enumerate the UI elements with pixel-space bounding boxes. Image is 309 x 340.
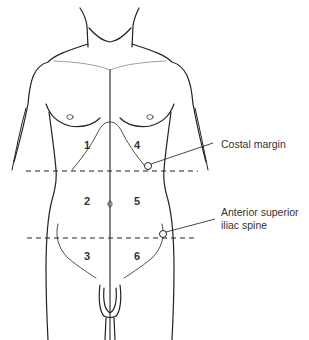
neck-right-outline <box>132 8 139 47</box>
region-number-5: 5 <box>134 195 140 207</box>
costal-margin-marker <box>145 163 152 170</box>
left-torso-outline <box>46 112 56 340</box>
left-arm-inner <box>12 108 26 170</box>
right-pectoral <box>120 104 174 127</box>
region-number-4: 4 <box>134 139 141 151</box>
left-pectoral <box>46 104 100 127</box>
region-number-2: 2 <box>84 195 90 207</box>
region-number-3: 3 <box>84 250 90 262</box>
asis-label-line1: Anterior superior <box>221 206 299 218</box>
right-arm-inner <box>195 108 208 170</box>
asis-pointer <box>166 219 215 232</box>
torso-figure: 1 2 3 4 5 6 Costal margin Anterior super… <box>0 0 309 340</box>
left-nipple <box>67 115 73 120</box>
left-shoulder-arm-outline <box>14 44 88 162</box>
right-torso-outline <box>164 112 174 340</box>
left-inguinal-line <box>57 224 96 278</box>
neck-left-outline <box>80 8 88 47</box>
region-number-1: 1 <box>84 139 90 151</box>
chin-curve <box>89 28 131 42</box>
right-shoulder-arm-outline <box>132 44 206 162</box>
costal-margin-label: Costal margin <box>221 138 286 150</box>
region-number-6: 6 <box>134 250 140 262</box>
clavicle-line <box>54 61 166 70</box>
abdominal-regions-diagram: 1 2 3 4 5 6 Costal margin Anterior super… <box>0 0 309 340</box>
asis-marker <box>160 231 167 238</box>
right-nipple <box>147 115 153 120</box>
asis-label-line2: iliac spine <box>221 219 267 231</box>
right-inguinal-line <box>124 224 163 278</box>
